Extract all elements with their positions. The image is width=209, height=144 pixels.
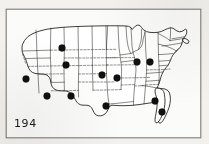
map-marker[interactable] xyxy=(134,59,141,66)
map-marker[interactable] xyxy=(23,76,30,83)
map-marker[interactable] xyxy=(63,62,70,69)
us-map-figure: 194 xyxy=(0,0,209,144)
figure-number-label: 194 xyxy=(14,117,37,130)
map-marker[interactable] xyxy=(103,103,110,110)
map-marker[interactable] xyxy=(44,93,51,100)
map-marker[interactable] xyxy=(147,59,154,66)
map-marker[interactable] xyxy=(68,93,75,100)
map-marker[interactable] xyxy=(59,45,66,52)
figure-container: 194 xyxy=(0,0,209,144)
map-marker[interactable] xyxy=(114,75,121,82)
map-marker[interactable] xyxy=(152,98,159,105)
map-marker[interactable] xyxy=(99,72,106,79)
map-marker[interactable] xyxy=(159,109,166,116)
